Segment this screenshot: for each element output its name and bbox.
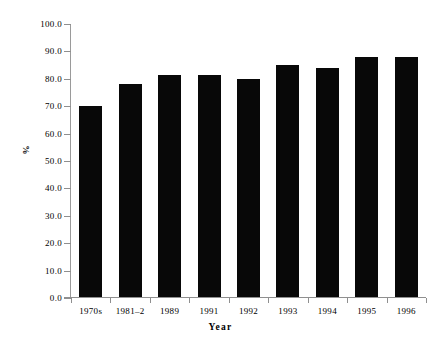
x-axis-tick	[347, 298, 348, 303]
y-axis-tick	[64, 271, 71, 272]
x-axis-tick-label: 1992	[229, 306, 268, 317]
y-axis-tick-label: 0.0	[24, 293, 62, 303]
x-axis-tick-label: 1981–2	[110, 306, 149, 317]
y-axis-tick-label: 70.0	[24, 101, 62, 111]
x-axis-tick-label: 1989	[150, 306, 189, 317]
x-axis-tick-label: 1993	[268, 306, 307, 317]
bar	[158, 75, 181, 298]
x-axis-tick	[387, 298, 388, 303]
plot-area	[71, 24, 426, 298]
bar	[119, 84, 142, 298]
y-axis-tick	[64, 161, 71, 162]
x-axis-tick	[71, 298, 72, 303]
bar	[198, 75, 221, 298]
x-axis-tick	[110, 298, 111, 303]
bar	[79, 106, 102, 298]
y-axis-tick-label: 20.0	[24, 238, 62, 248]
x-axis-tick-label: 1996	[387, 306, 426, 317]
bar	[355, 57, 378, 298]
x-axis-tick-label: 1995	[347, 306, 386, 317]
x-axis-tick-labels: 1970s1981–21989199119921993199419951996	[71, 306, 426, 320]
y-axis-tick	[64, 298, 71, 299]
y-axis-tick-label: 30.0	[24, 211, 62, 221]
y-axis-tick-labels: 0.010.020.030.040.050.060.070.080.090.01…	[24, 18, 62, 302]
x-axis-label: Year	[0, 322, 441, 332]
y-axis-tick	[64, 188, 71, 189]
y-axis-tick-label: 10.0	[24, 266, 62, 276]
x-axis-tick	[189, 298, 190, 303]
y-axis-tick	[64, 134, 71, 135]
y-axis-tick	[64, 106, 71, 107]
bar	[395, 57, 418, 298]
bar	[316, 68, 339, 298]
y-axis-tick	[64, 51, 71, 52]
x-axis-tick	[308, 298, 309, 303]
bar	[237, 79, 260, 298]
x-axis-tick-label: 1970s	[71, 306, 110, 317]
x-axis-line	[64, 297, 426, 298]
y-axis-tick	[64, 243, 71, 244]
x-axis-tick-label: 1994	[308, 306, 347, 317]
y-axis-tick-label: 50.0	[24, 156, 62, 166]
y-axis-tick-label: 100.0	[24, 19, 62, 29]
x-axis-tick	[426, 298, 427, 303]
y-axis-tick	[64, 24, 71, 25]
x-axis-tick	[229, 298, 230, 303]
y-axis-tick-label: 80.0	[24, 74, 62, 84]
y-axis-tick-label: 40.0	[24, 183, 62, 193]
y-axis-tick	[64, 79, 71, 80]
bar	[276, 65, 299, 298]
x-axis-tick	[268, 298, 269, 303]
y-axis-tick	[64, 216, 71, 217]
x-axis-tick-label: 1991	[189, 306, 228, 317]
bar-chart: % 0.010.020.030.040.050.060.070.080.090.…	[0, 0, 441, 345]
y-axis-tick-label: 60.0	[24, 129, 62, 139]
x-axis-tick	[150, 298, 151, 303]
y-axis-tick-label: 90.0	[24, 46, 62, 56]
